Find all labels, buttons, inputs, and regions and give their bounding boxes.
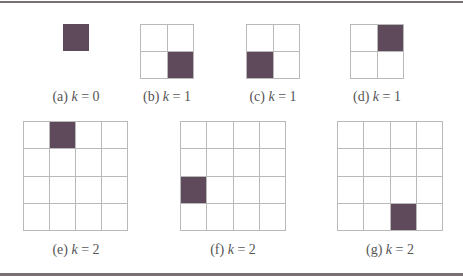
cell — [168, 25, 195, 52]
caption-a-k: k — [71, 89, 77, 104]
cell — [141, 25, 168, 52]
cell — [338, 204, 364, 231]
cell — [102, 149, 128, 176]
caption-c-value: = 1 — [278, 89, 296, 104]
cell — [181, 149, 207, 176]
cell — [417, 204, 443, 231]
filled-cell — [168, 52, 195, 79]
top-rule — [0, 1, 463, 3]
filled-cell — [181, 177, 207, 204]
cell — [351, 25, 378, 52]
filled-cell — [391, 204, 417, 231]
caption-e-k: k — [71, 242, 77, 257]
caption-b-k: k — [163, 89, 169, 104]
cell — [207, 204, 233, 231]
panel-d-grid — [350, 24, 404, 79]
cell — [76, 122, 102, 149]
caption-d-value: = 1 — [383, 89, 401, 104]
caption-b: (b) k = 1 — [143, 89, 191, 105]
caption-c: (c) k = 1 — [249, 89, 296, 105]
cell — [364, 122, 390, 149]
cell — [181, 122, 207, 149]
cell — [274, 52, 301, 79]
cell — [338, 177, 364, 204]
cell — [247, 25, 274, 52]
cell — [338, 122, 364, 149]
panel-g-grid — [337, 121, 443, 231]
cell — [24, 177, 50, 204]
cell — [364, 204, 390, 231]
cell — [234, 177, 260, 204]
cell — [391, 149, 417, 176]
cell — [260, 122, 286, 149]
filled-cell — [247, 52, 274, 79]
caption-f-k: k — [228, 242, 234, 257]
cell — [391, 122, 417, 149]
cell — [76, 204, 102, 231]
cell — [417, 177, 443, 204]
cell — [391, 177, 417, 204]
panel-b-grid — [140, 24, 194, 79]
caption-g-k: k — [386, 242, 392, 257]
caption-a-label: (a) — [52, 89, 68, 104]
cell — [207, 177, 233, 204]
caption-g: (g) k = 2 — [366, 242, 414, 258]
caption-e-value: = 2 — [81, 242, 99, 257]
caption-g-label: (g) — [366, 242, 382, 257]
panel-a-single-cell — [63, 24, 89, 51]
caption-c-label: (c) — [249, 89, 265, 104]
cell — [378, 52, 405, 79]
cell — [24, 122, 50, 149]
cell — [102, 177, 128, 204]
caption-e-label: (e) — [52, 242, 68, 257]
cell — [417, 122, 443, 149]
filled-cell — [50, 122, 76, 149]
caption-f-label: (f) — [210, 242, 224, 257]
caption-a-value: = 0 — [81, 89, 99, 104]
cell — [76, 177, 102, 204]
cell — [234, 204, 260, 231]
cell — [338, 149, 364, 176]
cell — [234, 149, 260, 176]
cell — [207, 122, 233, 149]
cell — [234, 122, 260, 149]
cell — [364, 149, 390, 176]
cell — [260, 149, 286, 176]
panel-c-grid — [246, 24, 300, 79]
cell — [181, 204, 207, 231]
panel-e-grid — [23, 121, 128, 231]
caption-c-k: k — [268, 89, 274, 104]
cell — [274, 25, 301, 52]
cell — [76, 149, 102, 176]
cell — [102, 204, 128, 231]
caption-d-label: (d) — [353, 89, 369, 104]
cell — [364, 177, 390, 204]
caption-b-label: (b) — [143, 89, 159, 104]
caption-f-value: = 2 — [237, 242, 255, 257]
caption-b-value: = 1 — [173, 89, 191, 104]
filled-cell — [378, 25, 405, 52]
cell — [50, 177, 76, 204]
caption-a: (a) k = 0 — [52, 89, 99, 105]
cell — [24, 204, 50, 231]
caption-d-k: k — [373, 89, 379, 104]
cell — [417, 149, 443, 176]
cell — [260, 204, 286, 231]
cell — [141, 52, 168, 79]
cell — [351, 52, 378, 79]
cell — [102, 122, 128, 149]
caption-d: (d) k = 1 — [353, 89, 401, 105]
cell — [50, 149, 76, 176]
panel-f-grid — [180, 121, 286, 231]
cell — [24, 149, 50, 176]
caption-g-value: = 2 — [396, 242, 414, 257]
cell — [207, 149, 233, 176]
cell — [50, 204, 76, 231]
caption-e: (e) k = 2 — [52, 242, 99, 258]
cell — [260, 177, 286, 204]
caption-f: (f) k = 2 — [210, 242, 256, 258]
